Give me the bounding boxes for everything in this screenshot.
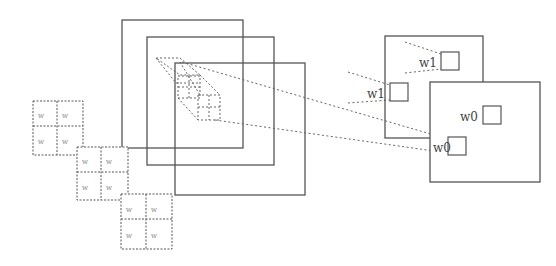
svg-text:w: w — [106, 158, 112, 166]
weight-grid-2 — [77, 147, 128, 200]
convolution-diagram: w1 w1 w0 w0 w w w w w w w w w w w w — [0, 0, 556, 266]
input-map-2 — [147, 37, 274, 165]
unit-w1-b — [390, 83, 408, 101]
svg-text:w: w — [151, 232, 157, 240]
unit-w1-a — [441, 52, 459, 70]
receptive-field-cube — [156, 58, 220, 120]
output-feature-maps — [385, 36, 540, 182]
svg-text:w: w — [151, 206, 157, 214]
label-w1-a: w1 — [419, 56, 437, 70]
label-w0-a: w0 — [460, 110, 478, 124]
unit-w0-a — [483, 106, 501, 124]
svg-text:w: w — [126, 232, 132, 240]
input-map-3 — [175, 63, 305, 195]
label-w1-b: w1 — [367, 87, 385, 101]
svg-text:w: w — [62, 138, 68, 146]
svg-text:w: w — [82, 184, 88, 192]
svg-text:w: w — [106, 184, 112, 192]
weight-grids — [33, 101, 172, 249]
input-feature-maps — [122, 20, 305, 195]
svg-text:w: w — [38, 138, 44, 146]
svg-text:w: w — [126, 206, 132, 214]
input-map-1 — [122, 20, 243, 148]
weight-grid-1 — [33, 101, 83, 155]
svg-text:w: w — [38, 112, 44, 120]
svg-text:w: w — [82, 158, 88, 166]
output-map-0 — [430, 82, 540, 182]
label-w0-b: w0 — [433, 141, 451, 155]
svg-text:w: w — [62, 112, 68, 120]
weight-grid-3 — [121, 194, 172, 249]
